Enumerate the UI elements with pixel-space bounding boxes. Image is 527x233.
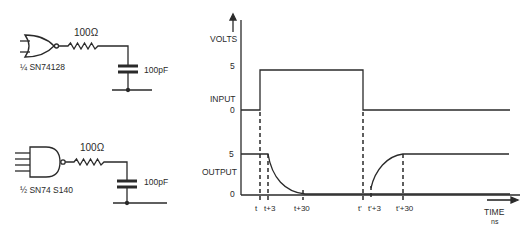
x-axis xyxy=(241,195,520,203)
top-capacitor-label: 100pF xyxy=(144,65,168,75)
output-low-value: 0 xyxy=(230,189,235,199)
time-markers xyxy=(260,112,403,200)
input-high-value: 5 xyxy=(230,61,235,71)
output-high-value: 5 xyxy=(229,149,234,159)
resistor-top xyxy=(59,43,129,65)
resistor-bottom xyxy=(65,159,127,180)
bottom-gate-label: ½ SN74 S140 xyxy=(20,185,73,195)
tick-label-t-plus-30: t+30 xyxy=(294,204,310,213)
diagram-canvas: 100Ω 100pF ¼ SN74128 100Ω 100pF ½ SN74 S… xyxy=(0,0,527,233)
nor-gate-symbol xyxy=(20,35,59,57)
top-gate-label: ¼ SN74128 xyxy=(20,62,65,72)
bottom-resistor-label: 100Ω xyxy=(80,142,105,153)
output-label: OUTPUT xyxy=(202,167,237,177)
nand-gate-symbol xyxy=(15,147,65,177)
y-axis-label: VOLTS xyxy=(210,34,238,44)
tick-label-t-prime-plus-3: t'+3 xyxy=(368,204,381,213)
tick-label-t-prime-plus-30: t'+30 xyxy=(396,204,414,213)
tick-label-t: t xyxy=(255,204,258,213)
input-waveform xyxy=(241,70,510,110)
x-axis-label: TIME xyxy=(484,207,505,217)
input-label: INPUT xyxy=(210,94,236,104)
input-low-value: 0 xyxy=(230,105,235,115)
tick-label-t-plus-3: t+3 xyxy=(264,204,276,213)
tick-label-t-prime: t' xyxy=(358,204,362,213)
output-waveform xyxy=(241,154,510,194)
bottom-capacitor-label: 100pF xyxy=(144,177,168,187)
top-resistor-label: 100Ω xyxy=(74,27,99,38)
x-axis-unit: ns xyxy=(491,218,499,225)
